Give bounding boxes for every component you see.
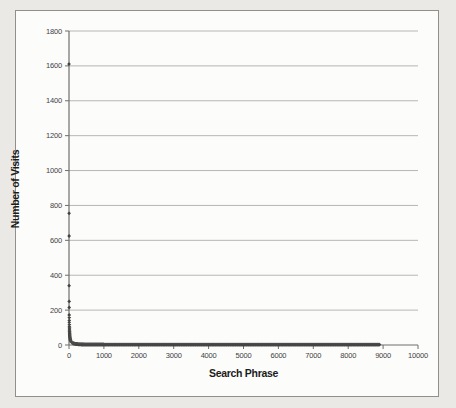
x-tick-label: 0	[67, 351, 71, 360]
x-tick-label: 3000	[166, 351, 182, 360]
y-tick-label: 400	[50, 271, 62, 280]
x-tick-label: 10000	[408, 351, 428, 360]
x-tick-label: 1000	[96, 351, 112, 360]
x-tick-label: 9000	[375, 351, 391, 360]
tick-marks	[65, 31, 418, 349]
y-tick-label: 0	[58, 341, 62, 350]
y-tick-label: 1400	[46, 96, 62, 105]
x-axis-title: Search Phrase	[69, 367, 418, 379]
scanned-page-background: 0200400600800100012001400160018000100020…	[0, 0, 456, 408]
y-axis-title: Number of Visits	[9, 124, 21, 254]
x-tick-label: 2000	[131, 351, 147, 360]
y-tick-label: 1800	[46, 27, 62, 36]
y-tick-label: 1000	[46, 166, 62, 175]
x-tick-label: 6000	[270, 351, 286, 360]
axis-lines	[69, 31, 418, 345]
x-tick-label: 8000	[340, 351, 356, 360]
y-tick-label: 1600	[46, 61, 62, 70]
x-tick-label: 7000	[305, 351, 321, 360]
y-tick-label: 200	[50, 306, 62, 315]
data-points	[67, 62, 381, 346]
scatter-plot-canvas: 0200400600800100012001400160018000100020…	[0, 0, 456, 408]
y-tick-label: 600	[50, 236, 62, 245]
x-tick-label: 5000	[236, 351, 252, 360]
y-tick-label: 800	[50, 201, 62, 210]
gridlines	[69, 31, 418, 310]
x-tick-label: 4000	[201, 351, 217, 360]
y-tick-label: 1200	[46, 131, 62, 140]
